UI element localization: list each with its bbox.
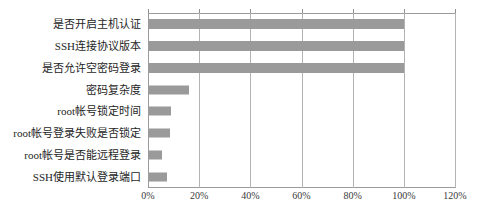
- chart-row: 密码复杂度: [0, 79, 479, 101]
- category-label: root帐号登录失败是否锁定: [13, 127, 141, 140]
- bar-chart: — ——— — — ———— 0%20%40%60%80%100%120% 是否…: [0, 0, 479, 215]
- chart-row: root帐号登录失败是否锁定: [0, 122, 479, 144]
- chart-row: root帐号锁定时间: [0, 101, 479, 123]
- bar: [149, 41, 404, 51]
- x-axis-tick-label: 20%: [190, 190, 208, 201]
- chart-row: SSH使用默认登录端口: [0, 166, 479, 188]
- chart-row: SSH连接协议版本: [0, 35, 479, 57]
- x-axis-tick-label: 100%: [392, 190, 415, 201]
- category-label: root帐号锁定时间: [57, 105, 141, 118]
- bar: [149, 107, 171, 116]
- category-label: SSH使用默认登录端口: [33, 171, 141, 184]
- category-label: root帐号是否能远程登录: [24, 149, 141, 162]
- category-label: 是否允许空密码登录: [42, 61, 141, 74]
- bar: [149, 19, 404, 29]
- x-axis-tick-label: 60%: [292, 190, 310, 201]
- category-label: 是否开启主机认证: [53, 17, 141, 30]
- chart-row: root帐号是否能远程登录: [0, 144, 479, 166]
- x-axis-tick-label: 120%: [443, 190, 466, 201]
- clipped-header-text: — ——— — — ————: [4, 0, 120, 1]
- chart-row: 是否开启主机认证: [0, 13, 479, 35]
- bar: [149, 129, 170, 138]
- bar: [149, 85, 189, 94]
- bar: [149, 63, 404, 73]
- chart-row: 是否允许空密码登录: [0, 57, 479, 79]
- category-label: SSH连接协议版本: [55, 39, 141, 52]
- x-axis-tick-label: 0%: [141, 190, 154, 201]
- bar: [149, 151, 162, 160]
- chart-rows: 是否开启主机认证SSH连接协议版本是否允许空密码登录密码复杂度root帐号锁定时…: [0, 13, 479, 188]
- x-axis-tick-label: 40%: [241, 190, 259, 201]
- category-label: 密码复杂度: [86, 83, 141, 96]
- x-axis-tick-label: 80%: [343, 190, 361, 201]
- bar: [149, 173, 167, 182]
